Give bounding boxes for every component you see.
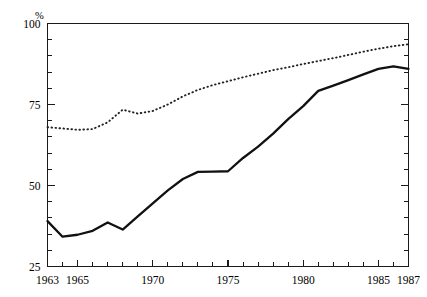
series-line-upper-dotted-series [48, 44, 409, 130]
y-axis-label-group: 255075100 [23, 18, 41, 273]
x-axis-label-1965: 1965 [66, 274, 89, 286]
y-axis-tick-group [48, 24, 409, 267]
series-line-lower-solid-series [48, 66, 409, 236]
x-axis-label-1985: 1985 [367, 274, 390, 286]
y-axis-label-75: 75 [29, 99, 41, 111]
x-axis-label-1980: 1980 [292, 274, 315, 286]
y-axis-label-100: 100 [23, 18, 41, 30]
y-axis-label-25: 25 [29, 261, 41, 273]
data-series-group [48, 44, 409, 236]
x-axis-label-1963: 1963 [36, 274, 59, 286]
line-chart: % 255075100 1963196519701975198019851987 [0, 0, 427, 297]
x-axis-tick-group [48, 260, 409, 267]
plot-frame [48, 24, 409, 267]
y-axis-label-50: 50 [29, 180, 41, 192]
chart-container: % 255075100 1963196519701975198019851987 [0, 0, 427, 297]
x-axis-label-1987: 1987 [397, 274, 420, 286]
axis-frame [48, 24, 409, 267]
x-axis-label-1975: 1975 [217, 274, 240, 286]
x-axis-label-1970: 1970 [141, 274, 164, 286]
x-axis-label-group: 1963196519701975198019851987 [36, 274, 420, 286]
